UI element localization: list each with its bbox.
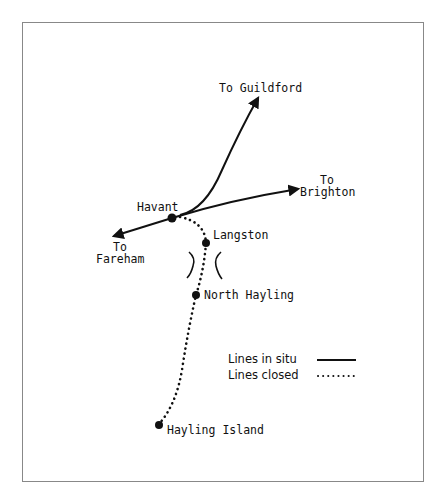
line-to-guildford: [180, 98, 258, 215]
station-dot-havant: [168, 214, 177, 223]
label-langston: Langston: [213, 229, 268, 241]
station-dot-hayling-island: [155, 421, 163, 429]
legend-label-in-situ: Lines in situ: [228, 352, 297, 366]
label-hayling-island: Hayling Island: [167, 424, 264, 436]
line-to-fareham: [114, 218, 172, 236]
label-to-fareham-line2: Fareham: [96, 253, 144, 265]
lines-closed: [159, 217, 206, 424]
label-havant: Havant: [137, 201, 179, 213]
station-dot-langston: [202, 239, 210, 247]
bridge-bracket-left: [187, 252, 194, 278]
stations: [155, 214, 210, 430]
legend-label-closed: Lines closed: [228, 368, 299, 382]
label-to-brighton-line2: Brighton: [300, 186, 355, 198]
label-to-guildford: To Guildford: [219, 82, 302, 94]
bridge-symbol: [187, 252, 222, 279]
lines-in-situ: [114, 98, 298, 236]
station-dot-north-hayling: [192, 291, 200, 299]
hayling-branch: [159, 217, 206, 424]
line-to-brighton: [172, 189, 298, 218]
label-north-hayling: North Hayling: [204, 289, 294, 301]
bridge-bracket-right: [216, 252, 222, 279]
legend-samples: [317, 360, 357, 376]
